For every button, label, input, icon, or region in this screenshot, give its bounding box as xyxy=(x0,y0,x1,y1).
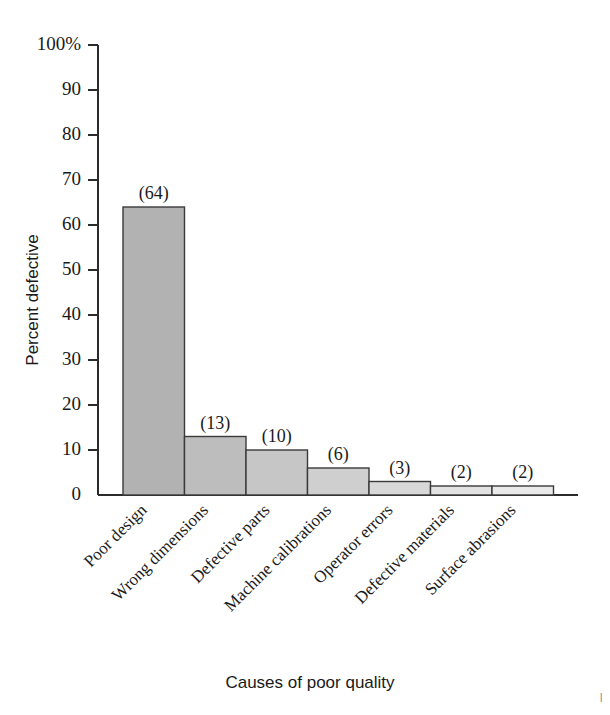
y-tick-label: 30 xyxy=(62,348,81,369)
bar-value-label: (6) xyxy=(328,444,349,465)
bar[interactable] xyxy=(431,486,493,495)
chart-background xyxy=(0,0,610,715)
bar-value-label: (13) xyxy=(200,413,230,434)
y-axis-title: Percent defective xyxy=(23,234,42,365)
y-tick-label: 60 xyxy=(62,213,81,234)
corner-mark: | xyxy=(600,692,602,702)
y-tick-label: 70 xyxy=(62,168,81,189)
pareto-bar-chart: Percent defective 0102030405060708090100… xyxy=(0,0,610,715)
y-tick-label: 20 xyxy=(62,393,81,414)
chart-figure: Percent defective 0102030405060708090100… xyxy=(0,0,610,715)
y-tick-label: 40 xyxy=(62,303,81,324)
bar[interactable] xyxy=(308,468,370,495)
y-tick-label: 90 xyxy=(62,78,81,99)
y-tick-label: 80 xyxy=(62,123,81,144)
bar[interactable] xyxy=(492,486,554,495)
bar-value-label: (2) xyxy=(451,462,472,483)
bar[interactable] xyxy=(123,207,185,495)
y-tick-label: 10 xyxy=(62,438,81,459)
bar-value-label: (64) xyxy=(139,183,169,204)
y-tick-label: 0 xyxy=(72,483,82,504)
bar[interactable] xyxy=(185,437,247,496)
bar-value-label: (2) xyxy=(512,462,533,483)
bar[interactable] xyxy=(246,450,308,495)
bar[interactable] xyxy=(369,482,431,496)
bar-value-label: (3) xyxy=(389,458,410,479)
y-tick-label: 100% xyxy=(37,33,82,54)
y-tick-label: 50 xyxy=(62,258,81,279)
bar-value-label: (10) xyxy=(262,426,292,447)
x-axis-title: Causes of poor quality xyxy=(225,673,395,692)
